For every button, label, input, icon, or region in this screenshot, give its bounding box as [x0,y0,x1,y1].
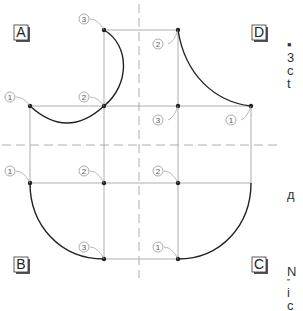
geometry-diagram: 12312312123 ABCD [0,0,303,311]
svg-text:1: 1 [8,167,13,176]
arc-d [178,30,251,106]
arc-a-lower [30,106,104,123]
center-lines [2,4,278,278]
svg-text:3: 3 [82,243,87,252]
construction-grid [30,30,251,259]
svg-text:B: B [16,256,25,272]
svg-text:D: D [254,24,264,40]
side-text-top: ▪ 3 c t [287,38,294,90]
svg-text:A: A [16,24,26,40]
curves [30,30,251,259]
side-text-middle: д [287,188,295,201]
quadrant-label-a: A [14,24,30,42]
points [28,28,253,261]
svg-text:1: 1 [8,93,13,102]
svg-text:2: 2 [82,167,87,176]
svg-text:1: 1 [229,116,234,125]
side-text-bottom: N ” i c [287,265,296,311]
svg-text:C: C [254,256,264,272]
leader-lines [16,19,251,259]
svg-text:2: 2 [82,93,87,102]
arc-c [178,183,251,259]
arc-a-upper [104,30,124,106]
svg-text:2: 2 [156,167,161,176]
svg-text:3: 3 [156,116,161,125]
svg-text:1: 1 [156,243,161,252]
quadrant-label-b: B [14,256,30,274]
svg-text:3: 3 [82,15,87,24]
quadrant-label-d: D [252,24,268,42]
svg-text:2: 2 [156,40,161,49]
quadrant-label-c: C [252,256,268,274]
